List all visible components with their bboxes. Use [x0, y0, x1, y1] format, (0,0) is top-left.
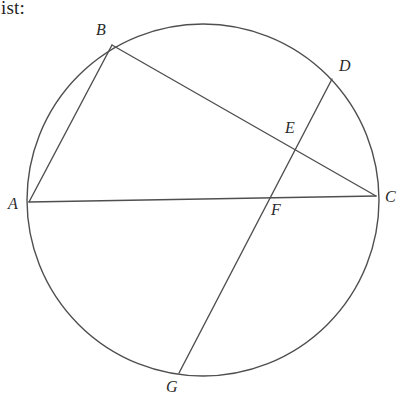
point-label-e: E	[285, 120, 295, 136]
point-label-d: D	[339, 58, 351, 74]
segment-bc	[112, 45, 376, 196]
point-label-b: B	[96, 22, 106, 38]
figure-page: ist: A B C D E F G	[0, 0, 407, 403]
point-label-g: G	[166, 379, 178, 395]
point-label-c: C	[385, 189, 396, 205]
segment-ac	[29, 196, 376, 202]
segment-dg	[179, 79, 332, 373]
point-label-a: A	[8, 196, 18, 212]
circle-outline	[27, 24, 379, 376]
segment-ab	[29, 45, 112, 202]
point-label-f: F	[271, 202, 281, 218]
